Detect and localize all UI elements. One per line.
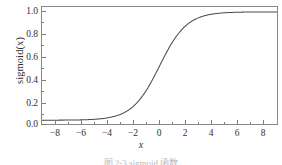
sigmoid-curve <box>42 12 277 120</box>
y-minor-tick-mark <box>42 45 44 46</box>
x-tick-mark <box>185 120 186 124</box>
x-tick-mark <box>159 120 160 124</box>
x-tick-mark <box>81 120 82 124</box>
x-tick-mark <box>107 120 108 124</box>
x-tick-label: −2 <box>122 128 144 139</box>
x-axis-label: x <box>0 139 282 150</box>
y-tick-label: 0.8 <box>14 30 38 40</box>
y-tick-mark <box>42 103 46 104</box>
x-minor-tick-mark <box>94 122 95 124</box>
y-minor-tick-mark <box>42 22 44 23</box>
y-minor-tick-mark <box>42 114 44 115</box>
x-tick-label: −6 <box>70 128 92 139</box>
y-minor-tick-mark <box>42 68 44 69</box>
x-tick-mark <box>55 120 56 124</box>
figure-caption: 图 2-3 sigmoid 函数 <box>0 158 282 165</box>
y-minor-tick-mark <box>42 91 44 92</box>
x-tick-label: 4 <box>200 128 222 139</box>
x-tick-label: −8 <box>44 128 66 139</box>
x-tick-label: 0 <box>148 128 170 139</box>
y-tick-mark <box>42 11 46 12</box>
x-tick-label: 2 <box>174 128 196 139</box>
x-minor-tick-mark <box>250 122 251 124</box>
sigmoid-curve-svg <box>42 7 277 124</box>
y-tick-label: 0.2 <box>14 99 38 109</box>
y-tick-label: 0.6 <box>14 53 38 63</box>
x-minor-tick-mark <box>224 122 225 124</box>
y-tick-mark <box>42 57 46 58</box>
x-minor-tick-mark <box>146 122 147 124</box>
plot-area <box>41 6 278 125</box>
x-tick-label: 6 <box>226 128 248 139</box>
y-tick-mark <box>42 34 46 35</box>
y-tick-mark <box>42 80 46 81</box>
x-tick-label: 8 <box>252 128 274 139</box>
x-minor-tick-mark <box>198 122 199 124</box>
x-tick-mark <box>263 120 264 124</box>
y-tick-mark <box>42 124 46 125</box>
x-minor-tick-mark <box>172 122 173 124</box>
x-minor-tick-mark <box>120 122 121 124</box>
y-tick-label: 1.0 <box>14 7 38 17</box>
x-tick-mark <box>133 120 134 124</box>
x-tick-mark <box>237 120 238 124</box>
x-tick-mark <box>211 120 212 124</box>
x-tick-label: −4 <box>96 128 118 139</box>
x-minor-tick-mark <box>68 122 69 124</box>
sigmoid-figure: sigmoid(x) 1.0 0.8 0.6 0.4 0.2 0.0 <box>0 0 282 165</box>
y-tick-label: 0.4 <box>14 76 38 86</box>
